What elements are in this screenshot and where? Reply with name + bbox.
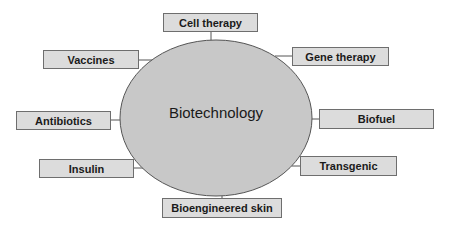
node-biofuel: Biofuel	[319, 109, 434, 129]
center-label: Biotechnology	[120, 104, 312, 121]
node-antibiotics: Antibiotics	[16, 111, 111, 130]
node-cell-therapy: Cell therapy	[163, 13, 258, 32]
node-transgenic: Transgenic	[300, 156, 397, 176]
node-gene-therapy: Gene therapy	[292, 47, 389, 66]
node-bioengineered-skin: Bioengineered skin	[162, 198, 282, 218]
node-insulin: Insulin	[39, 159, 134, 178]
node-vaccines: Vaccines	[43, 50, 139, 69]
